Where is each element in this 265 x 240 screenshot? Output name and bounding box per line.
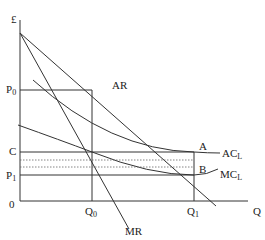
mc-label: MCL	[220, 169, 242, 183]
ar-label: AR	[112, 80, 127, 91]
point-b-label: B	[199, 164, 206, 175]
p0-label: P0	[6, 84, 16, 98]
ar-line	[20, 33, 216, 206]
x-axis-label: Q	[253, 206, 261, 217]
mr-label: MR	[125, 226, 142, 237]
origin-label: 0	[9, 199, 15, 210]
point-a-label: A	[199, 141, 207, 152]
monopoly-cost-diagram: £ Q 0 P0 C P1 Q0 Q1 AR MR A B ACL MCL	[0, 0, 265, 240]
ac-label: ACL	[222, 148, 242, 162]
y-axis-label: £	[11, 14, 17, 25]
c-label: C	[9, 146, 16, 157]
q0-label: Q0	[85, 206, 97, 220]
mr-line	[20, 33, 129, 229]
p1-label: P1	[6, 170, 16, 184]
mc-curve	[18, 125, 218, 175]
q1-label: Q1	[187, 206, 199, 220]
diagram-canvas	[0, 0, 265, 240]
